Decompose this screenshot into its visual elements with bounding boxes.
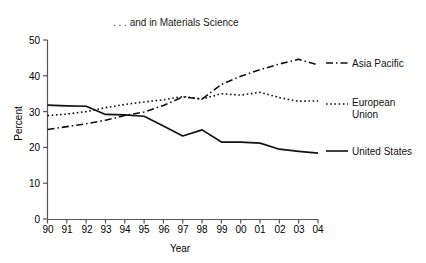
series-lines xyxy=(48,59,319,153)
axes xyxy=(43,40,318,224)
legend-swatches xyxy=(326,63,348,151)
series-line-united-states xyxy=(48,105,319,153)
chart-canvas xyxy=(0,0,426,263)
series-line-asia-pacific xyxy=(48,59,319,129)
series-line-european-union xyxy=(48,92,319,115)
materials-science-line-chart: . . . and in Materials Science Percent Y… xyxy=(0,0,426,263)
